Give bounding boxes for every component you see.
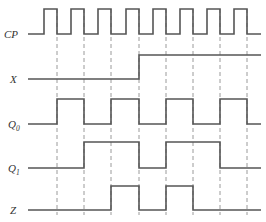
signal-label-subscript: 0: [16, 124, 20, 133]
waveform-q0: [28, 99, 261, 124]
waveform-q1: [28, 142, 261, 168]
waveform-canvas: CPXQ0Q1Z: [0, 0, 266, 222]
signal-label-x: X: [9, 73, 18, 85]
waveforms-group: [28, 9, 261, 210]
signal-labels-group: CPXQ0Q1Z: [4, 28, 20, 216]
grid-lines-group: [57, 9, 247, 215]
waveform-x: [28, 55, 261, 79]
signal-label-subscript: 1: [16, 168, 20, 177]
signal-label-q0: Q0: [8, 118, 20, 133]
waveform-z: [28, 186, 261, 210]
signal-label-z: Z: [10, 204, 17, 216]
signal-label-cp: CP: [4, 28, 18, 40]
signal-label-q1: Q1: [8, 162, 20, 177]
timing-diagram: CPXQ0Q1Z: [0, 0, 266, 222]
waveform-cp: [28, 9, 261, 34]
